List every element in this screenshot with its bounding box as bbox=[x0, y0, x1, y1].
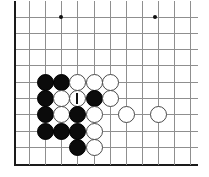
stone-black[interactable] bbox=[53, 74, 70, 91]
stone-white[interactable] bbox=[102, 90, 119, 107]
stone-black[interactable] bbox=[86, 90, 103, 107]
stone-white[interactable] bbox=[118, 106, 135, 123]
stone-black[interactable] bbox=[37, 90, 54, 107]
stone-black[interactable] bbox=[37, 123, 54, 140]
grid-line-vertical bbox=[29, 1, 30, 165]
grid-line-horizontal bbox=[14, 49, 198, 50]
grid-line-vertical bbox=[158, 1, 159, 165]
board-bottom-edge bbox=[14, 164, 198, 166]
grid-line-vertical bbox=[126, 1, 127, 165]
stone-white[interactable] bbox=[102, 74, 119, 91]
star-point bbox=[59, 15, 63, 19]
star-point bbox=[153, 15, 157, 19]
goban-grid[interactable] bbox=[0, 0, 209, 177]
stone-black[interactable] bbox=[37, 74, 54, 91]
stone-white[interactable] bbox=[53, 90, 70, 107]
stone-black[interactable] bbox=[53, 123, 70, 140]
stone-white[interactable] bbox=[86, 139, 103, 156]
grid-line-horizontal bbox=[14, 65, 198, 66]
grid-line-horizontal bbox=[14, 17, 198, 18]
grid-line-vertical bbox=[190, 1, 191, 165]
go-board-diagram bbox=[0, 0, 209, 177]
move-marker-icon bbox=[76, 93, 78, 104]
stone-white[interactable] bbox=[150, 106, 167, 123]
stone-black[interactable] bbox=[69, 139, 86, 156]
stone-black[interactable] bbox=[69, 123, 86, 140]
stone-black[interactable] bbox=[69, 106, 86, 123]
grid-line-horizontal bbox=[14, 33, 198, 34]
stone-white-marked[interactable] bbox=[69, 90, 86, 107]
stone-white[interactable] bbox=[86, 123, 103, 140]
grid-line-vertical bbox=[174, 1, 175, 165]
stone-white[interactable] bbox=[86, 106, 103, 123]
stone-black[interactable] bbox=[37, 106, 54, 123]
stone-white[interactable] bbox=[53, 106, 70, 123]
grid-line-vertical bbox=[142, 1, 143, 165]
board-left-edge bbox=[14, 1, 16, 165]
grid-line-horizontal bbox=[14, 147, 198, 148]
stone-white[interactable] bbox=[86, 74, 103, 91]
stone-white[interactable] bbox=[69, 74, 86, 91]
